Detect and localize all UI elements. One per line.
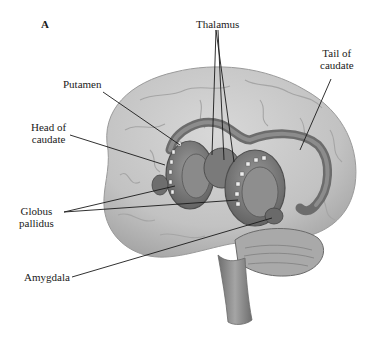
amygdala (265, 208, 283, 224)
label-globus-pallidus-line2: pallidus (19, 217, 54, 229)
label-tail-of-caudate: Tail of caudate (320, 47, 354, 71)
brain-figure: A Thalamus Tail of caudate Putamen Head … (0, 0, 387, 344)
label-head-of-caudate-line1: Head of (31, 121, 66, 133)
label-globus-pallidus: Globus pallidus (19, 205, 54, 229)
label-putamen: Putamen (63, 78, 102, 90)
label-tail-of-caudate-line1: Tail of (320, 47, 354, 59)
label-amygdala: Amygdala (24, 271, 70, 283)
label-head-of-caudate: Head of caudate (31, 121, 66, 145)
label-tail-of-caudate-line2: caudate (320, 59, 354, 71)
label-head-of-caudate-line2: caudate (31, 133, 66, 145)
panel-letter: A (41, 18, 49, 30)
cerebellum (235, 228, 324, 276)
label-thalamus: Thalamus (196, 18, 239, 30)
label-globus-pallidus-line1: Globus (19, 205, 54, 217)
